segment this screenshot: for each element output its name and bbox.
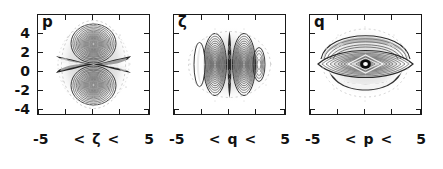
x-tick: [364, 15, 365, 20]
y-tick-label: 4: [4, 26, 30, 40]
panel-2-plot: [174, 15, 285, 114]
x-axis-expression: < q <: [209, 131, 257, 147]
x-axis-caption-1: -5 < ζ < 5: [33, 126, 154, 152]
x-axis-expression: < ζ <: [74, 131, 120, 147]
y-tick: [38, 52, 43, 53]
panel-frame: [37, 14, 150, 115]
y-tick: [38, 90, 43, 91]
panel-axis-label-q: q: [314, 15, 325, 30]
y-tick: [310, 52, 315, 53]
x-axis-caption-3: -5 < p < 5: [305, 126, 426, 152]
panel-zeta: ζ: [173, 14, 286, 115]
y-tick-label: 2: [4, 45, 30, 59]
panel-axis-label-p: p: [42, 15, 53, 30]
y-tick: [38, 71, 43, 72]
x-tick: [255, 15, 256, 20]
y-tick: [310, 71, 315, 72]
x-min-label: -5: [305, 131, 321, 147]
y-tick: [144, 90, 149, 91]
y-tick: [144, 33, 149, 34]
less-than-symbol: <: [244, 131, 256, 147]
y-tick: [174, 33, 179, 34]
y-tick: [38, 109, 43, 110]
y-tick: [174, 90, 179, 91]
panel-axis-label-zeta: ζ: [178, 15, 187, 30]
y-tick: [144, 52, 149, 53]
x-tick: [119, 15, 120, 20]
panel-q: q: [309, 14, 422, 115]
y-tick-label: -4: [4, 102, 30, 116]
y-tick: [416, 33, 421, 34]
x-tick: [391, 15, 392, 20]
x-tick: [65, 109, 66, 114]
x-axis-expression: < p <: [345, 131, 393, 147]
x-tick: [201, 15, 202, 20]
y-tick: [416, 90, 421, 91]
x-max-label: 5: [144, 131, 154, 147]
y-tick: [280, 52, 285, 53]
x-tick: [228, 15, 229, 20]
y-tick: [38, 33, 43, 34]
x-max-label: 5: [280, 131, 290, 147]
y-tick: [310, 90, 315, 91]
x-tick: [92, 15, 93, 20]
y-tick: [144, 71, 149, 72]
less-than-symbol: <: [209, 131, 221, 147]
x-tick: [92, 109, 93, 114]
y-tick: [416, 71, 421, 72]
y-tick: [280, 33, 285, 34]
x-tick: [201, 109, 202, 114]
x-axis-caption-2: -5 < q < 5: [169, 126, 290, 152]
y-tick-label: 0: [4, 64, 30, 78]
panel-p: p: [37, 14, 150, 115]
x-variable-symbol: p: [363, 131, 373, 147]
x-variable-symbol: ζ: [92, 131, 100, 147]
x-tick: [119, 109, 120, 114]
x-tick: [65, 15, 66, 20]
y-tick: [174, 71, 179, 72]
x-variable-symbol: q: [227, 131, 237, 147]
y-tick: [174, 109, 179, 110]
y-tick: [310, 33, 315, 34]
y-tick-label: -2: [4, 83, 30, 97]
x-tick: [391, 109, 392, 114]
x-max-label: 5: [416, 131, 426, 147]
y-tick: [416, 109, 421, 110]
x-min-label: -5: [169, 131, 185, 147]
y-tick: [310, 109, 315, 110]
y-tick: [416, 52, 421, 53]
less-than-symbol: <: [380, 131, 392, 147]
less-than-symbol: <: [345, 131, 357, 147]
x-tick: [337, 15, 338, 20]
panel-frame: [173, 14, 286, 115]
less-than-symbol: <: [74, 131, 86, 147]
y-tick: [280, 90, 285, 91]
y-tick: [280, 71, 285, 72]
x-tick: [255, 109, 256, 114]
y-tick: [144, 109, 149, 110]
y-tick: [280, 109, 285, 110]
panel-frame: [309, 14, 422, 115]
x-tick: [228, 109, 229, 114]
y-tick: [174, 52, 179, 53]
figure-root: 4 2 0 -2 -4: [0, 0, 443, 169]
x-tick: [337, 109, 338, 114]
panel-3-plot: [310, 15, 421, 114]
panel-1-plot: [38, 15, 149, 114]
x-tick: [364, 109, 365, 114]
less-than-symbol: <: [108, 131, 120, 147]
x-min-label: -5: [33, 131, 49, 147]
